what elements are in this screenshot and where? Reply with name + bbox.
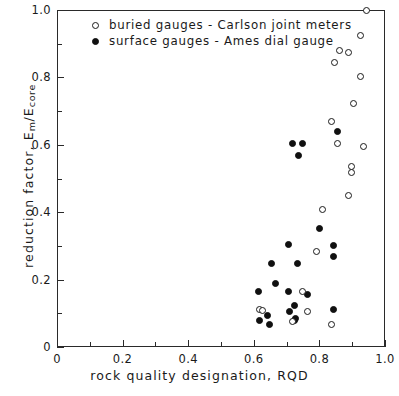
data-point-surface-gauge xyxy=(285,241,292,248)
data-point-buried-gauge xyxy=(331,59,338,66)
x-axis-title: rock quality designation, RQD xyxy=(0,368,399,383)
data-point-buried-gauge xyxy=(259,307,266,314)
y-axis-tick xyxy=(57,280,64,281)
legend-entry-surface-gauges: surface gauges - Ames dial gauge xyxy=(88,33,352,49)
data-point-buried-gauge xyxy=(299,288,306,295)
y-axis-title: reduction factor, Em/Ecore xyxy=(21,51,37,301)
data-point-surface-gauge xyxy=(289,140,296,147)
data-point-surface-gauge xyxy=(256,317,263,324)
y-axis-minor-tick xyxy=(57,179,62,180)
y-axis-minor-tick xyxy=(57,111,62,112)
legend-label-buried-gauges: buried gauges - Carlson joint meters xyxy=(109,18,352,32)
x-axis-minor-tick xyxy=(155,342,156,347)
data-point-surface-gauge xyxy=(272,280,279,287)
data-point-buried-gauge xyxy=(319,206,326,213)
y-axis-tick xyxy=(57,145,64,146)
data-point-surface-gauge xyxy=(266,321,273,328)
y-axis-title-sub-m: m xyxy=(26,121,37,131)
y-axis-title-main: reduction factor, E xyxy=(21,131,36,268)
data-point-buried-gauge xyxy=(313,248,320,255)
x-axis-tick-label: 0.2 xyxy=(113,352,133,366)
data-point-buried-gauge xyxy=(304,308,311,315)
data-point-surface-gauge xyxy=(285,288,292,295)
y-axis-tick xyxy=(57,347,64,348)
x-axis-tick xyxy=(254,340,255,347)
x-axis-tick-label: 0 xyxy=(53,352,61,366)
y-axis-tick xyxy=(57,212,64,213)
x-axis-tick-label: 0.4 xyxy=(178,352,198,366)
chart-legend: buried gauges - Carlson joint meters sur… xyxy=(88,17,352,49)
x-axis-tick xyxy=(57,340,58,347)
filled-circle-icon xyxy=(88,38,102,45)
y-axis-title-sub-core: core xyxy=(26,84,37,107)
x-axis-tick xyxy=(319,340,320,347)
data-point-buried-gauge xyxy=(348,169,355,176)
y-axis-tick-label: 0 xyxy=(11,340,51,354)
x-axis-tick-label: 0.6 xyxy=(244,352,264,366)
data-point-surface-gauge xyxy=(294,260,301,267)
y-axis-tick-label: 1.0 xyxy=(11,3,51,17)
x-axis-tick xyxy=(188,340,189,347)
x-axis-tick-label: 1.0 xyxy=(375,352,395,366)
data-point-surface-gauge xyxy=(255,288,262,295)
data-point-surface-gauge xyxy=(316,225,323,232)
y-axis-tick xyxy=(57,10,64,11)
data-point-surface-gauge xyxy=(295,152,302,159)
data-point-buried-gauge xyxy=(357,73,364,80)
legend-entry-buried-gauges: buried gauges - Carlson joint meters xyxy=(88,17,352,33)
y-axis-minor-tick xyxy=(57,246,62,247)
x-axis-minor-tick xyxy=(352,342,353,347)
y-axis-minor-tick xyxy=(57,313,62,314)
data-point-buried-gauge xyxy=(328,321,335,328)
y-axis-minor-tick xyxy=(57,44,62,45)
y-axis-tick xyxy=(57,77,64,78)
x-axis-tick xyxy=(385,340,386,347)
x-axis-minor-tick xyxy=(221,342,222,347)
legend-label-surface-gauges: surface gauges - Ames dial gauge xyxy=(109,34,334,48)
x-axis-tick xyxy=(123,340,124,347)
x-axis-tick-label: 0.8 xyxy=(310,352,330,366)
x-axis-minor-tick xyxy=(287,342,288,347)
data-point-buried-gauge xyxy=(357,32,364,39)
data-point-buried-gauge xyxy=(289,318,296,325)
open-circle-icon xyxy=(88,22,102,29)
x-axis-minor-tick xyxy=(90,342,91,347)
y-axis-title-mid: /E xyxy=(21,107,36,121)
scatter-chart-figure: 00.20.40.60.81.000.20.40.60.81.0 buried … xyxy=(0,0,399,396)
